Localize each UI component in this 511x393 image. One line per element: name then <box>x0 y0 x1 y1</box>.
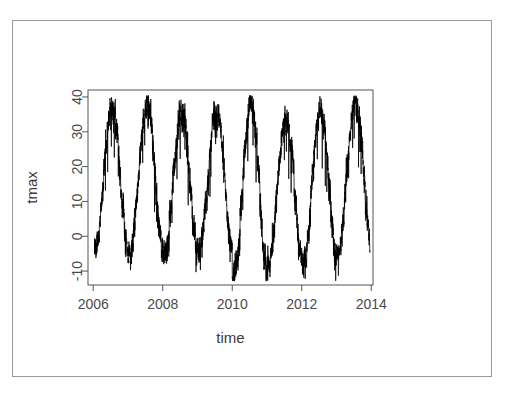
x-axis-tick-label: 2006 <box>78 296 109 312</box>
plot-frame-border: -1001020304020062008201020122014timetmax <box>12 20 492 377</box>
x-axis-tick-label: 2008 <box>147 296 178 312</box>
y-axis-tick-label: -10 <box>69 261 85 281</box>
y-axis-tick-label: 10 <box>69 193 85 209</box>
y-axis-tick-label: 20 <box>69 159 85 175</box>
x-axis-title: time <box>216 329 244 346</box>
x-axis-tick-label: 2012 <box>286 296 317 312</box>
cropped-caption-remnant <box>0 0 511 6</box>
tmax-series-line <box>95 95 370 281</box>
y-axis-tick-label: 30 <box>69 124 85 140</box>
y-axis-title: tmax <box>23 171 40 204</box>
y-axis-tick-label: 40 <box>69 89 85 105</box>
x-axis-tick-label: 2014 <box>356 296 387 312</box>
figure-container: -1001020304020062008201020122014timetmax <box>0 0 511 393</box>
tmax-time-series-plot: -1001020304020062008201020122014timetmax <box>13 21 491 376</box>
y-axis-tick-label: 0 <box>69 232 85 240</box>
x-axis-tick-label: 2010 <box>217 296 248 312</box>
